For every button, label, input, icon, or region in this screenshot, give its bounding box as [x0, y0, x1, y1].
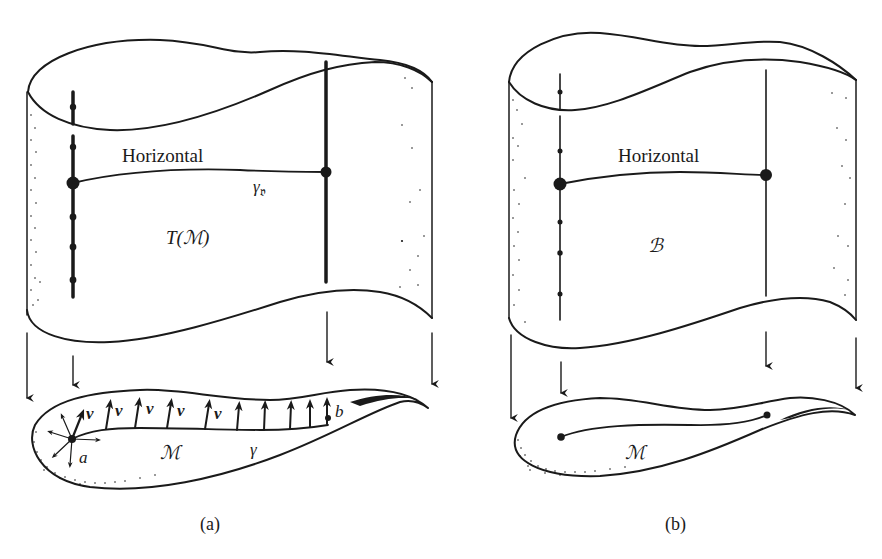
bundle-label-a: T(ℳ) [166, 227, 209, 249]
bundle-label-b: ℬ [648, 235, 665, 256]
vector-labels-a: v v v v v [86, 399, 222, 423]
caption-a: (a) [200, 514, 220, 535]
lift-curve-label-a: γ𝔳 [253, 177, 266, 199]
base-label-a: ℳ [160, 442, 183, 463]
svg-text:v: v [86, 404, 94, 423]
horizontal-lift-curve-b [560, 172, 766, 184]
stipple-left-b [512, 99, 526, 323]
fiber-bundle-figure: Horizontal γ𝔳 T(ℳ) [0, 0, 882, 559]
stipple-right-b [831, 92, 851, 296]
horizontal-lift-curve-a [73, 170, 326, 183]
base-curve-label-a: γ [250, 440, 258, 459]
projection-arrows-a [27, 312, 432, 398]
stipple-left-a [30, 114, 41, 306]
svg-text:v: v [214, 404, 222, 423]
base-start-point-b [557, 433, 565, 441]
svg-text:v: v [146, 399, 154, 418]
svg-text:v: v [177, 401, 185, 420]
horizontal-label-b: Horizontal [618, 145, 699, 166]
projection-arrows-b [511, 332, 856, 418]
panel-b: Horizontal ℬ ℳ (b) [509, 33, 856, 535]
point-a-label: a [79, 448, 88, 467]
bundle-surface-b [509, 33, 856, 349]
horizontal-label-a: Horizontal [122, 145, 203, 166]
svg-text:v: v [115, 401, 123, 420]
base-curve-b [561, 415, 767, 437]
stipple-right-a [399, 77, 425, 288]
panel-a: Horizontal γ𝔳 T(ℳ) [27, 40, 432, 535]
bundle-surface-a [27, 40, 432, 342]
base-end-point-b [764, 412, 771, 419]
point-b-label: b [335, 402, 344, 421]
base-label-b: ℳ [625, 442, 648, 463]
fiber-right-b [760, 70, 772, 296]
base-manifold-b [515, 398, 855, 477]
caption-b: (b) [665, 514, 686, 535]
